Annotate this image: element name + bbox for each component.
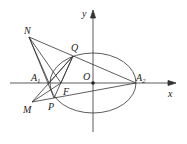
label-M: M: [22, 104, 32, 115]
label-P: P: [47, 101, 54, 112]
label-N: N: [23, 25, 32, 36]
label-x: x: [167, 88, 173, 99]
y-axis-arrow: [91, 10, 96, 18]
ellipse-diagram: y x O N Q A1 F A2 M P: [0, 0, 187, 144]
label-Q: Q: [71, 42, 79, 53]
origin-dot: [91, 81, 95, 85]
x-axis-arrow: [168, 81, 176, 86]
label-O: O: [83, 71, 90, 82]
label-F: F: [62, 86, 70, 97]
label-y: y: [81, 8, 87, 19]
